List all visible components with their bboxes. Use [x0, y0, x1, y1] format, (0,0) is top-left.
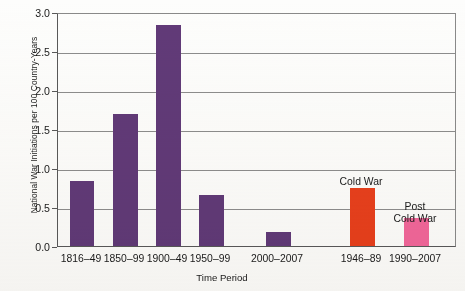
x-axis-title: Time Period: [132, 272, 312, 283]
x-axis-tick-label: 2000–2007: [251, 253, 303, 264]
y-axis-tick-mark: [52, 91, 57, 92]
x-axis-tick-label: 1950–99: [190, 253, 230, 264]
y-axis-tick-mark: [52, 247, 57, 248]
x-axis-tick-label: 1946–89: [341, 253, 381, 264]
bar: [266, 232, 291, 246]
bar: [156, 25, 181, 246]
gridline: [58, 53, 455, 54]
x-axis-tick-label: 1990–2007: [389, 253, 441, 264]
bar: [350, 188, 375, 247]
y-axis-tick-label: 2.0: [10, 85, 50, 97]
y-axis-tick-label: 3.0: [10, 7, 50, 19]
y-axis-tick-mark: [52, 130, 57, 131]
gridline: [58, 92, 455, 93]
y-axis-tick-label: 2.5: [10, 46, 50, 58]
y-axis-tick-label: 0.0: [10, 241, 50, 253]
bar: [113, 114, 138, 246]
y-axis-tick-label: 1.5: [10, 124, 50, 136]
x-axis-tick-label: 1816–49: [61, 253, 101, 264]
x-axis-tick-label: 1850–99: [104, 253, 144, 264]
bar: [199, 195, 224, 246]
y-axis-tick-label: 0.5: [10, 202, 50, 214]
annotation-label: Cold War: [340, 176, 383, 188]
bar: [70, 181, 94, 246]
bar-chart: National War Initiations per 100 Country…: [0, 0, 465, 291]
annotation-label: Post Cold War: [394, 201, 437, 224]
y-axis-tick-mark: [52, 208, 57, 209]
x-axis-tick-label: 1900–49: [147, 253, 187, 264]
y-axis-tick-mark: [52, 52, 57, 53]
y-axis-tick-mark: [52, 169, 57, 170]
y-axis-tick-label: 1.0: [10, 163, 50, 175]
y-axis-tick-mark: [52, 13, 57, 14]
